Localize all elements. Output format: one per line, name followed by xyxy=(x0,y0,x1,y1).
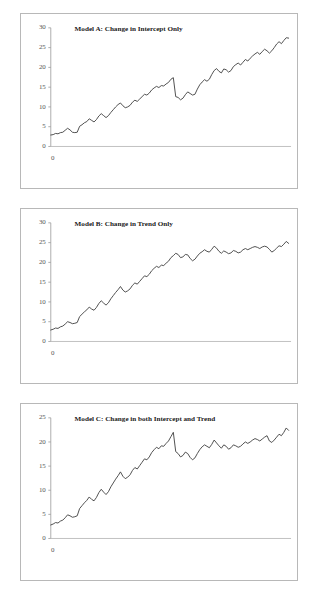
y-tick-label-model-a-0: 0 xyxy=(42,142,46,149)
y-tick-label-model-a-3: 15 xyxy=(39,83,46,90)
figure-panels: Model A: Change in Intercept Only0510152… xyxy=(0,0,314,594)
x-tick-label-model-b-0: 0 xyxy=(51,349,55,356)
y-tick-label-model-a-4: 20 xyxy=(39,63,46,70)
y-tick-label-model-c-5: 25 xyxy=(39,413,46,420)
series-line-model-c xyxy=(51,428,289,525)
chart-svg-model-a: Model A: Change in Intercept Only0510152… xyxy=(21,14,297,188)
x-tick-label-model-c-0: 0 xyxy=(51,546,55,553)
y-tick-label-model-b-3: 15 xyxy=(39,278,46,285)
y-tick-label-model-a-6: 30 xyxy=(39,23,46,30)
y-tick-label-model-b-6: 30 xyxy=(39,218,46,225)
y-tick-label-model-c-1: 5 xyxy=(42,510,46,517)
y-tick-label-model-a-5: 25 xyxy=(39,43,46,50)
y-tick-label-model-c-2: 10 xyxy=(39,486,46,493)
chart-title-model-b: Model B: Change in Trend Only xyxy=(75,220,174,228)
chart-panel-model-b: Model B: Change in Trend Only05101520253… xyxy=(20,208,298,384)
y-tick-label-model-c-3: 15 xyxy=(39,462,46,469)
y-tick-label-model-b-1: 5 xyxy=(42,317,46,324)
series-line-model-b xyxy=(51,241,289,330)
y-tick-label-model-a-2: 10 xyxy=(39,103,46,110)
series-line-model-a xyxy=(51,38,289,135)
chart-svg-model-c: Model C: Change in both Intercept and Tr… xyxy=(21,404,297,580)
y-tick-label-model-c-4: 20 xyxy=(39,438,46,445)
chart-panel-model-a: Model A: Change in Intercept Only0510152… xyxy=(20,13,298,189)
chart-panel-model-c: Model C: Change in both Intercept and Tr… xyxy=(20,403,298,581)
chart-svg-model-b: Model B: Change in Trend Only05101520253… xyxy=(21,209,297,383)
y-tick-label-model-b-4: 20 xyxy=(39,258,46,265)
y-tick-label-model-b-5: 25 xyxy=(39,238,46,245)
y-tick-label-model-b-2: 10 xyxy=(39,298,46,305)
y-tick-label-model-b-0: 0 xyxy=(42,337,46,344)
chart-title-model-c: Model C: Change in both Intercept and Tr… xyxy=(75,415,216,423)
y-tick-label-model-c-0: 0 xyxy=(42,534,46,541)
chart-title-model-a: Model A: Change in Intercept Only xyxy=(75,25,183,33)
y-tick-label-model-a-1: 5 xyxy=(42,122,46,129)
x-tick-label-model-a-0: 0 xyxy=(51,154,55,161)
